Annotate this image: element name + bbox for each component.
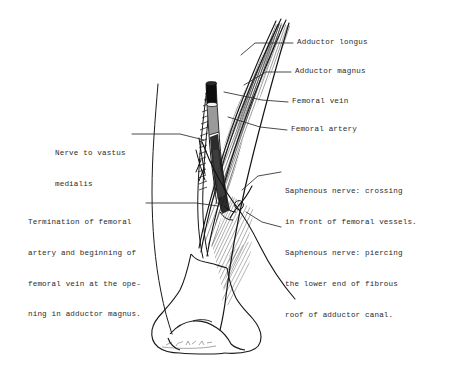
label-femoral-vein: Femoral vein <box>292 96 348 106</box>
label-termination-line3: femoral vein at the ope- <box>28 279 141 289</box>
anatomical-diagram-page: Adductor longus Adductor magnus Femoral … <box>0 0 453 367</box>
leader-saphenous-piercing <box>246 212 281 227</box>
label-adductor-magnus: Adductor magnus <box>295 66 366 76</box>
leader-nerve-to-vastus <box>132 134 204 140</box>
label-nerve-to-vastus-line1: Nerve to vastus <box>55 148 126 158</box>
label-saphenous-piercing: Saphenous nerve: piercing the lower end … <box>285 228 403 340</box>
label-femoral-termination: Termination of femoral artery and beginn… <box>28 197 141 340</box>
label-nerve-to-vastus-line2: medialis <box>55 179 126 189</box>
femoral-vein <box>206 82 217 106</box>
label-termination-line1: Termination of femoral <box>28 217 141 227</box>
muscle-hatching-distal-sheet <box>202 228 264 320</box>
muscle-hatching-adductor-longus <box>164 20 291 258</box>
leader-termination <box>146 203 218 206</box>
thigh-medial-contour <box>152 84 172 334</box>
label-femoral-artery: Femoral artery <box>291 124 357 134</box>
label-saphenous-crossing-line1: Saphenous nerve: crossing <box>285 186 417 196</box>
label-saphenous-crossing-line2: in front of femoral vessels. <box>285 217 417 227</box>
label-termination-line4: ning in adductor magnus. <box>28 309 141 319</box>
label-saphenous-piercing-line2: the lower end of fibrous <box>285 279 403 289</box>
muscle-hatching-lower-sheet <box>190 181 269 306</box>
label-adductor-longus: Adductor longus <box>297 37 368 47</box>
label-termination-line2: artery and beginning of <box>28 248 141 258</box>
distal-femur <box>152 254 261 354</box>
label-saphenous-piercing-line3: roof of adductor canal. <box>285 310 403 320</box>
label-saphenous-piercing-line1: Saphenous nerve: piercing <box>285 248 403 258</box>
